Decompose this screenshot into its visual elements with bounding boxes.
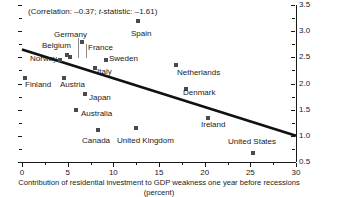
data-label-netherlands: Netherlands: [177, 68, 220, 77]
data-label-canada: Canada: [82, 136, 110, 145]
x-tick-minor: [91, 163, 92, 165]
x-tick-5: [68, 163, 69, 167]
data-label-denmark: Denmark: [183, 88, 215, 97]
data-point-belgium[interactable]: [65, 53, 69, 57]
chart-root: (Correlation: –0.37; t-statistic: –1.61)…: [0, 0, 347, 197]
x-tick-10: [113, 163, 114, 167]
data-point-france[interactable]: [80, 40, 84, 44]
data-point-spain[interactable]: [136, 19, 140, 23]
data-label-japan: Japan: [89, 93, 111, 102]
y-tick-label-2.0: 2.0: [299, 79, 310, 88]
x-tick-minor: [182, 163, 183, 165]
data-label-sweden: Sweden: [109, 54, 138, 63]
data-label-austria: Austria: [60, 80, 85, 89]
x-tick-0: [22, 163, 23, 167]
y-axis-title: Employment rigidity index2: [330, 0, 344, 5]
x-tick-15: [159, 163, 160, 167]
data-point-united-kingdom[interactable]: [134, 126, 138, 130]
leader-line-belgium: [86, 44, 87, 58]
data-label-united-states: United States: [228, 137, 276, 146]
x-tick-label-5: 5: [53, 168, 83, 177]
data-label-norway: Norway: [30, 54, 57, 63]
x-tick-label-0: 0: [7, 168, 37, 177]
y-tick-label-0.5: 0.5: [299, 157, 310, 166]
x-tick-label-10: 10: [98, 168, 128, 177]
y-left-tick: [18, 162, 22, 163]
y-tick-label-1.0: 1.0: [299, 131, 310, 140]
data-label-germany: Germany: [54, 30, 87, 39]
y-axis-right-line: [296, 5, 297, 162]
x-axis-title: Contribution of residential investment t…: [14, 178, 304, 197]
data-point-netherlands[interactable]: [174, 63, 178, 67]
data-point-sweden[interactable]: [104, 58, 108, 62]
data-point-united-states[interactable]: [251, 151, 255, 155]
x-tick-30: [296, 163, 297, 167]
leader-line-germany: [78, 38, 79, 58]
y-tick-label-3.0: 3.0: [299, 26, 310, 35]
x-tick-minor: [45, 163, 46, 165]
x-tick-label-25: 25: [235, 168, 265, 177]
x-tick-minor: [273, 163, 274, 165]
data-label-belgium: Belgium: [42, 41, 71, 50]
y-tick-label-3.5: 3.5: [299, 0, 310, 9]
data-label-italy: Italy: [97, 67, 112, 76]
data-label-france: France: [88, 43, 113, 52]
data-point-australia[interactable]: [74, 108, 78, 112]
data-point-norway[interactable]: [58, 58, 62, 62]
x-tick-label-15: 15: [144, 168, 174, 177]
x-tick-label-30: 30: [281, 168, 311, 177]
x-tick-20: [205, 163, 206, 167]
data-label-australia: Australia: [81, 109, 112, 118]
x-tick-label-20: 20: [190, 168, 220, 177]
data-label-finland: Finland: [25, 80, 51, 89]
data-label-ireland: Ireland: [201, 120, 225, 129]
data-point-japan[interactable]: [83, 92, 87, 96]
data-point-ireland[interactable]: [206, 116, 210, 120]
x-tick-25: [250, 163, 251, 167]
data-point-germany[interactable]: [68, 55, 72, 59]
x-tick-minor: [228, 163, 229, 165]
y-tick-label-2.5: 2.5: [299, 52, 310, 61]
x-tick-minor: [136, 163, 137, 165]
data-label-united-kingdom: United Kingdom: [117, 136, 174, 145]
y-tick-0.5: [291, 162, 295, 163]
data-point-canada[interactable]: [96, 128, 100, 132]
data-label-spain: Spain: [131, 29, 151, 38]
y-tick-label-1.5: 1.5: [299, 105, 310, 114]
